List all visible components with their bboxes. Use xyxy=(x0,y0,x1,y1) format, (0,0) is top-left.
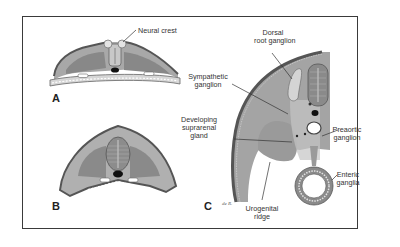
panel-b-cross-section xyxy=(60,126,176,196)
label-neural-crest: Neural crest xyxy=(138,27,177,35)
label-developing-suprarenal-gland: Developing suprarenal gland xyxy=(176,116,222,140)
panel-label-c: C xyxy=(204,200,212,212)
label-line: ganglion xyxy=(330,134,364,142)
label-line: ridge xyxy=(242,213,282,221)
artist-signature: de R. xyxy=(222,201,232,206)
label-enteric-ganglia: Enteric ganglia xyxy=(334,171,362,187)
panel-a-cross-section xyxy=(50,30,180,86)
panel-c-cross-section xyxy=(232,52,338,205)
label-line: ganglion xyxy=(188,81,228,89)
label-dorsal-root-ganglion: Dorsal root ganglion xyxy=(254,29,292,45)
panel-label-a: A xyxy=(52,92,60,104)
panel-label-b: B xyxy=(52,200,60,212)
label-line: gland xyxy=(176,132,222,140)
label-preaortic-ganglion: Preaortic ganglion xyxy=(330,126,364,142)
label-line: root ganglion xyxy=(254,37,292,45)
label-line: ganglia xyxy=(334,179,362,187)
label-urogenital-ridge: Urogenital ridge xyxy=(242,205,282,221)
label-sympathetic-ganglion: Sympathetic ganglion xyxy=(188,73,228,89)
